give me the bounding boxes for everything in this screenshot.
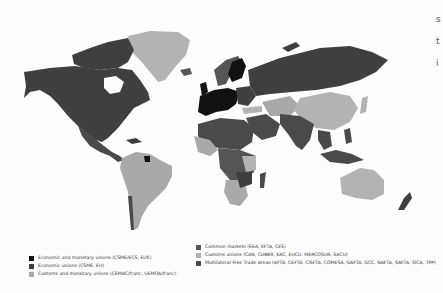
region-philippines	[344, 128, 352, 144]
legend-label: Customs unions (CAN, CUBKR, EAC, EUCU, M…	[205, 251, 348, 259]
legend-item: Economic unions (CSME, EU)	[29, 262, 176, 270]
legend-label: Customs and monetary unions (CEMAC/franc…	[38, 270, 176, 278]
legend-swatch	[196, 253, 201, 258]
region-guianas	[144, 156, 150, 162]
region-indonesia	[320, 150, 364, 164]
region-russia	[248, 46, 388, 96]
region-iceland	[180, 68, 192, 76]
legend-swatch	[29, 256, 34, 261]
legend-label: Economic unions (CSME, EU)	[38, 262, 104, 270]
edge-text-fragment: t	[436, 36, 440, 46]
region-central-asia	[262, 96, 300, 116]
region-se-asia	[318, 130, 332, 150]
legend-right: Common markets (EEA, EFTA, CES) Customs …	[196, 243, 436, 267]
region-north-america	[24, 66, 150, 142]
legend-label: Multilateral Free Trade Areas (AFTA, CEF…	[205, 259, 436, 267]
region-greenland	[128, 31, 190, 82]
region-turkey	[242, 106, 262, 114]
legend-item: Multilateral Free Trade Areas (AFTA, CEF…	[196, 259, 436, 267]
region-australia	[340, 168, 384, 200]
legend-swatch	[29, 272, 34, 277]
region-south-america	[120, 152, 172, 230]
legend-item: Common markets (EEA, EFTA, CES)	[196, 243, 436, 251]
region-caribbean	[126, 138, 142, 144]
region-canada-arctic	[72, 38, 134, 70]
legend-item: Economic and monetary unions (CSME/ECS, …	[29, 254, 176, 262]
legend-swatch	[196, 245, 201, 250]
world-trade-blocs-map	[0, 0, 443, 240]
legend-item: Customs and monetary unions (CEMAC/franc…	[29, 270, 176, 278]
legend-item: Customs unions (CAN, CUBKR, EAC, EUCU, M…	[196, 251, 436, 259]
region-madagascar	[260, 172, 266, 188]
region-japan	[360, 96, 368, 114]
legend-swatch	[196, 261, 201, 266]
edge-text-fragment: i	[436, 58, 439, 68]
legend-label: Common markets (EEA, EFTA, CES)	[205, 243, 286, 251]
legend-left: Economic and monetary unions (CSME/ECS, …	[29, 254, 176, 278]
legend-label: Economic and monetary unions (CSME/ECS, …	[38, 254, 151, 262]
region-arctic-islands	[282, 42, 300, 52]
edge-text-fragment: s	[436, 14, 441, 24]
legend-swatch	[29, 264, 34, 269]
region-new-zealand	[398, 192, 412, 210]
